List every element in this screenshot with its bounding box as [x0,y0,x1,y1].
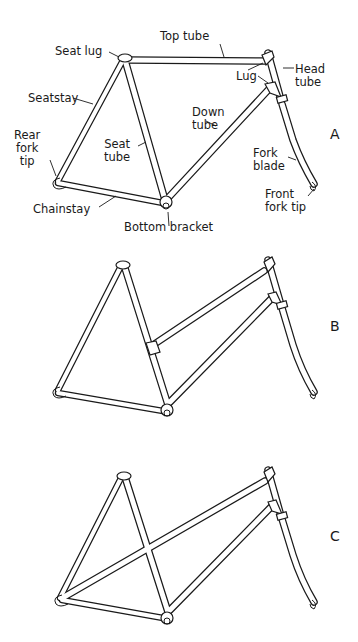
label-seat-lug: Seat lug [55,45,102,58]
frame-c [55,467,316,624]
label-head-tube: Head tube [295,63,325,89]
label-lug: Lug [236,70,257,83]
label-seatstay: Seatstay [28,92,78,105]
bottom-bracket-a [160,196,172,208]
panel-letter-a: A [330,126,340,142]
panel-letter-c: C [330,528,340,544]
label-rear-fork-tip: Rear fork tip [14,129,40,168]
seat-lug-a [118,54,132,62]
panel-letter-b: B [330,318,340,334]
label-chainstay: Chainstay [33,203,90,216]
label-fork-blade: Fork blade [253,147,285,173]
bicycle-frames-figure: .tube-o { stroke: #1a1a1a; stroke-width:… [0,0,358,642]
label-seat-tube: Seat tube [104,138,130,164]
label-top-tube: Top tube [160,30,209,43]
label-front-fork-tip: Front fork tip [265,188,306,214]
label-down-tube: Down tube [192,106,225,132]
label-bottom-bracket: Bottom bracket [124,221,213,234]
frame-b [53,257,316,416]
